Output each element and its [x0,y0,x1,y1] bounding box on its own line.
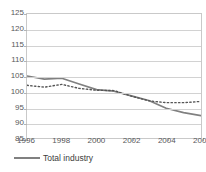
chart-figure: 125120115110105100959085 199619982000200… [0,0,206,172]
y-tick-label: 90 [15,119,24,127]
y-tick-label: 100 [11,88,24,96]
x-tick-label: 2000 [87,136,105,146]
y-axis-tick [24,77,27,78]
gridline [27,77,201,78]
legend-item-label: Total industry [43,153,93,163]
plot-area [26,13,202,139]
y-tick-label: 120 [11,25,24,33]
y-tick-label: 115 [11,41,24,49]
x-tick-label: 1998 [52,136,70,146]
series-line-0 [27,76,201,116]
gridline [27,46,201,47]
gridline [27,109,201,110]
y-axis-tick [24,124,27,125]
x-tick-label: 1996 [17,136,35,146]
gridline [27,61,201,62]
y-tick-label: 110 [11,56,24,64]
y-axis-tick [24,30,27,31]
y-tick-label: 105 [11,72,24,80]
gridline [27,30,201,31]
plot-area-wrapper: 125120115110105100959085 [0,6,206,136]
gridline [27,124,201,125]
y-tick-label: 95 [15,104,24,112]
x-axis-labels: 199619982000200220042006 [26,136,202,148]
y-axis-tick [24,14,27,15]
y-tick-label: 125 [11,9,24,17]
y-axis-labels: 125120115110105100959085 [0,6,24,136]
x-tick-label: 2002 [123,136,141,146]
y-axis-tick [24,61,27,62]
chart-legend: Total industry [14,153,93,163]
legend-line-swatch [14,157,40,159]
y-axis-tick [24,46,27,47]
y-axis-tick [24,93,27,94]
x-tick-label: 2006 [193,136,206,146]
x-tick-label: 2004 [158,136,176,146]
gridline [27,93,201,94]
series-lines [27,14,201,138]
y-axis-tick [24,109,27,110]
